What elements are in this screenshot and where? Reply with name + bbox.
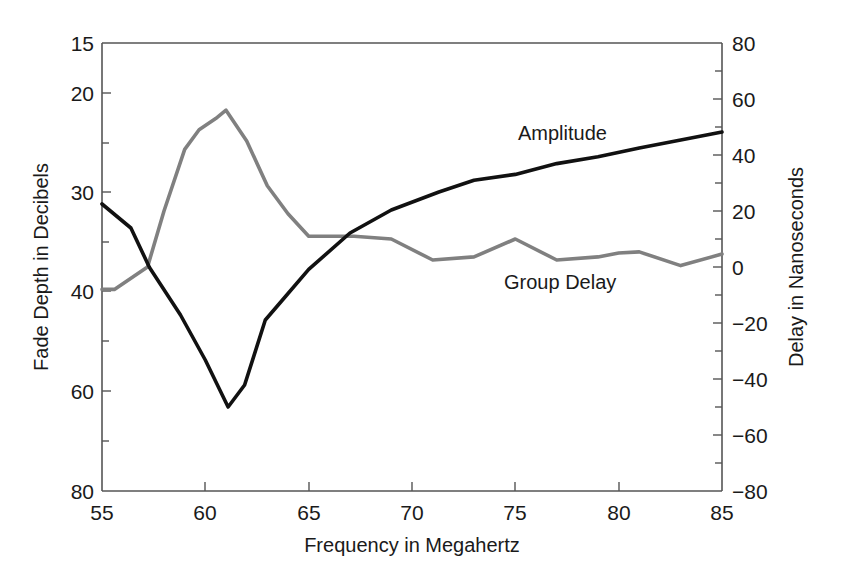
x-tick-label: 75	[503, 501, 526, 524]
left-axis-title: Fade Depth in Decibels	[30, 163, 52, 371]
left-tick-label: 40	[71, 280, 94, 303]
right-axis-title: Delay in Nanoseconds	[785, 167, 807, 367]
x-tick-label: 65	[297, 501, 320, 524]
x-tick-label: 80	[607, 501, 630, 524]
x-tick-label: 70	[400, 501, 423, 524]
amplitude-line	[102, 132, 722, 407]
group-delay-line	[102, 110, 722, 289]
x-tick-labels: 55 60 65 70 75 80 85	[90, 501, 733, 524]
right-ticks	[713, 71, 722, 463]
right-tick-label: 40	[732, 144, 755, 167]
left-tick-label: 60	[71, 380, 94, 403]
right-tick-label: 0	[732, 256, 744, 279]
x-axis-title: Frequency in Megahertz	[304, 534, 520, 556]
right-tick-label: −20	[732, 312, 768, 335]
chart: 55 60 65 70 75 80 85 Frequency in Megahe…	[0, 0, 841, 584]
x-tick-label: 85	[710, 501, 733, 524]
left-tick-label: 20	[71, 82, 94, 105]
right-tick-label: −60	[732, 424, 768, 447]
x-ticks	[205, 482, 619, 491]
group-delay-label: Group Delay	[504, 271, 616, 293]
amplitude-label: Amplitude	[518, 122, 607, 144]
left-tick-label: 80	[71, 480, 94, 503]
left-ticks	[102, 93, 111, 441]
right-tick-label: 80	[732, 32, 755, 55]
left-tick-label: 15	[71, 32, 94, 55]
left-tick-label: 30	[71, 181, 94, 204]
left-tick-labels: 15 20 30 40 60 80	[71, 32, 94, 503]
right-tick-label: 60	[732, 88, 755, 111]
right-tick-labels: 80 60 40 20 0 −20 −40 −60 −80	[732, 32, 768, 503]
x-tick-label: 55	[90, 501, 113, 524]
plot-frame	[102, 43, 722, 491]
x-tick-label: 60	[193, 501, 216, 524]
right-tick-label: −80	[732, 480, 768, 503]
right-tick-label: 20	[732, 200, 755, 223]
right-tick-label: −40	[732, 368, 768, 391]
